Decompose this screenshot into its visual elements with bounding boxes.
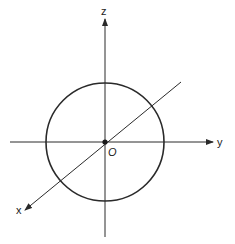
origin-point [102,139,107,144]
origin-label: O [108,146,117,158]
coordinate-diagram: z y x O [0,0,235,244]
x-axis-label: x [16,204,22,216]
y-axis-label: y [217,136,223,148]
diagram-canvas: z y x O [0,0,235,244]
z-axis-label: z [101,5,107,17]
x-axis [25,82,181,210]
